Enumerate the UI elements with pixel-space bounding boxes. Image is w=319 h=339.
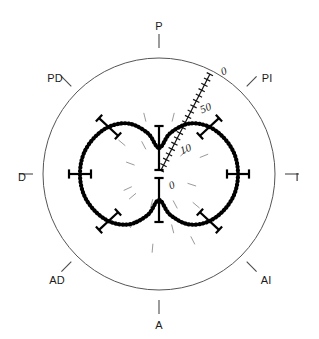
compass-label-pd: PD (47, 72, 62, 84)
compass-labels: PPIIAIAADDPD (18, 20, 299, 331)
interior-tick-15 (152, 244, 153, 253)
interior-tick-2 (142, 141, 146, 149)
compass-tick-ad (61, 262, 71, 272)
interior-radial-ticks (118, 113, 208, 253)
errorbar-upper-right-stem (200, 118, 219, 136)
compass-tick-pi (247, 76, 257, 86)
compass-tick-ai (247, 262, 257, 272)
compass-label-pi: PI (262, 72, 272, 84)
interior-tick-6 (126, 162, 134, 165)
errorbars (69, 115, 249, 234)
scale-label-3: 0 (167, 178, 177, 191)
interior-tick-14 (124, 187, 132, 191)
interior-tick-16 (191, 236, 195, 244)
interior-tick-5 (200, 154, 208, 157)
compass-label-ad: AD (49, 274, 64, 286)
errorbar-lower-right (197, 209, 222, 233)
interior-tick-8 (193, 202, 200, 208)
compass-label-i: I (295, 171, 298, 183)
errorbar-lower-left (96, 209, 121, 233)
compass-tick-pd (61, 76, 71, 86)
interior-tick-0 (144, 113, 146, 122)
compass-label-d: D (18, 171, 26, 183)
interior-tick-13 (129, 193, 136, 199)
interior-tick-9 (173, 200, 177, 208)
caption-text (0, 330, 319, 339)
errorbar-upper-left (96, 115, 121, 139)
scale-axis (158, 73, 213, 172)
figure-root: PPIIAIAADDPD 050100 (0, 0, 319, 339)
polar-plot-svg: PPIIAIAADDPD 050100 (0, 0, 319, 339)
errorbar-upper-right (197, 115, 222, 139)
interior-tick-12 (172, 224, 174, 233)
scale-label-1: 50 (198, 100, 213, 115)
compass-label-p: P (155, 20, 162, 32)
interior-tick-7 (188, 183, 197, 186)
interior-tick-1 (172, 113, 174, 122)
errorbar-lower-right-stem (200, 212, 219, 230)
interior-tick-4 (118, 140, 125, 146)
scale-label-2: 10 (178, 141, 193, 156)
compass-label-ai: AI (261, 274, 271, 286)
